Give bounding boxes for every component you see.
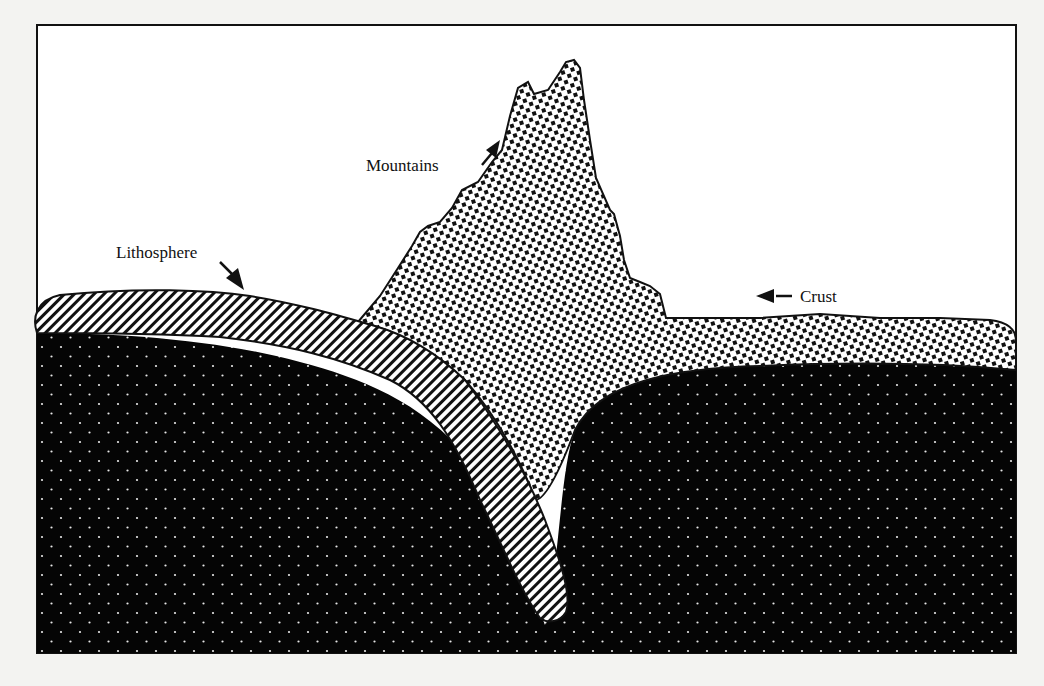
crust-label: Crust [800,288,837,305]
mountains-label: Mountains [366,157,439,174]
subduction-diagram [0,0,1044,686]
lithosphere-label: Lithosphere [116,244,197,261]
